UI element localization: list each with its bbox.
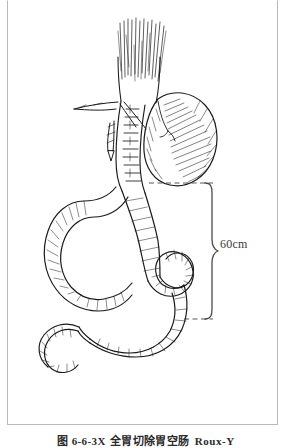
measurement-brace [205,183,218,319]
jejunal-loop-upper [44,187,132,311]
figure-frame: 60cm [7,0,278,425]
medical-illustration [8,1,279,425]
jejunal-limb-middle [122,191,160,281]
caption-text: 全胃切除胃空肠 [110,435,190,447]
esophagus-outline [118,57,160,103]
caption-number: 图 6-6-3X [57,435,106,447]
jejunal-limb-distal-hatching [97,297,187,357]
gastric-pouch [144,93,217,186]
measurement-label: 60cm [220,237,247,252]
caption-latin: Roux-Y [195,435,235,447]
figure-caption: 图 6-6-3X全胃切除胃空肠Roux-Y [0,432,292,448]
suture-line [123,105,141,181]
ligated-vessel-stump [74,102,146,161]
esophagus-fibers [118,18,166,81]
jejunal-crossing-loop [148,252,193,296]
jejunal-loop-upper-hatching [47,201,124,310]
gastric-pouch-fold [158,101,175,141]
gastric-pouch-hatching [147,99,216,182]
esophagojejunal-anastomosis [116,101,145,193]
